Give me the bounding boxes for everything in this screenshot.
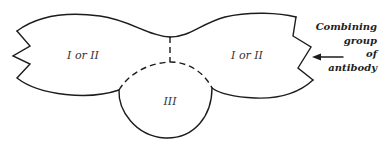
region-label-bottom: III — [163, 95, 176, 108]
annotation-line-2: group — [316, 34, 377, 48]
right-lobe-bottom-edge — [212, 80, 313, 98]
annotation-line-4: antibody — [316, 61, 377, 75]
annotation-line-1: Combining — [316, 20, 377, 34]
region-label-right: I or II — [231, 49, 263, 62]
dashed-boundary-arc — [119, 62, 212, 90]
combining-group-annotation: Combining group of antibody — [316, 20, 377, 74]
left-lobe-top-edge — [17, 14, 170, 37]
right-lobe-top-edge — [170, 13, 296, 37]
right-zigzag-combining-site — [293, 17, 313, 80]
left-lobe-outline — [13, 31, 119, 95]
region-label-left: I or II — [67, 49, 99, 62]
annotation-line-3: of — [316, 47, 377, 61]
